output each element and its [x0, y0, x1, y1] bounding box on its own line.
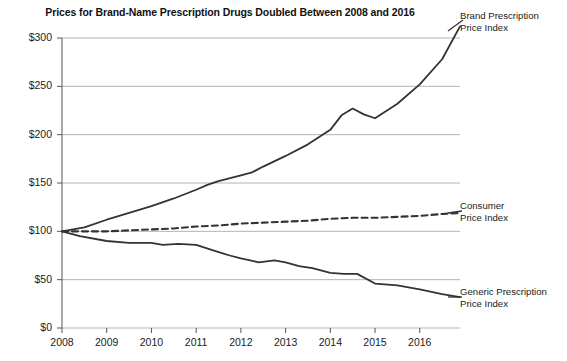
gridlines [62, 38, 460, 328]
x-axis-label: 2015 [354, 336, 396, 348]
legend-brand-line2: Price Index [460, 22, 567, 34]
x-axis-label: 2009 [86, 336, 128, 348]
y-axis-label: $300 [8, 31, 52, 43]
legend-brand-line1: Brand Prescription [460, 10, 567, 22]
x-axis-label: 2012 [220, 336, 262, 348]
data-series-group [62, 26, 460, 297]
legend-generic-line1: Generic Prescription [460, 286, 567, 298]
x-axis-label: 2013 [265, 336, 307, 348]
legend-leader-lines [448, 20, 463, 297]
x-axis-label: 2016 [399, 336, 441, 348]
x-axis-ticks [62, 328, 420, 333]
x-axis-label: 2008 [41, 336, 83, 348]
y-axis-ticks [57, 38, 62, 328]
legend-consumer-line2: Price Index [460, 212, 567, 224]
y-axis-label: $100 [8, 224, 52, 236]
y-axis-label: $150 [8, 176, 52, 188]
y-axis-label: $0 [8, 321, 52, 333]
legend-generic: Generic Prescription Price Index [460, 286, 567, 309]
x-axis-label: 2014 [309, 336, 351, 348]
legend-generic-line2: Price Index [460, 298, 567, 310]
y-axis-label: $200 [8, 128, 52, 140]
y-axis-label: $50 [8, 273, 52, 285]
series-line-2 [62, 231, 460, 297]
chart-root: Prices for Brand-Name Prescription Drugs… [0, 0, 567, 361]
x-axis-label: 2011 [175, 336, 217, 348]
legend-consumer-line1: Consumer [460, 200, 567, 212]
legend-brand: Brand Prescription Price Index [460, 10, 567, 33]
y-axis-label: $250 [8, 79, 52, 91]
series-line-0 [62, 26, 460, 231]
x-axis-label: 2010 [130, 336, 172, 348]
legend-consumer: Consumer Price Index [460, 200, 567, 223]
